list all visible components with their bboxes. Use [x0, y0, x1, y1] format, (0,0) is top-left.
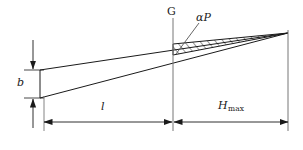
max-height-subscript: max [228, 104, 244, 113]
thickness-label-b: b [17, 77, 24, 88]
diagram-canvas: G αP b l Hmax [0, 0, 303, 150]
max-height-base: H [218, 99, 228, 112]
hatched-region-label-alpha-p: αP [196, 12, 211, 23]
max-height-label: Hmax [218, 100, 243, 111]
upper-chord-line [40, 33, 288, 70]
diagram-vector-layer [0, 0, 303, 150]
length-label-l: l [101, 101, 105, 112]
axis-label-g: G [167, 6, 176, 17]
lower-chord-line [40, 33, 288, 98]
